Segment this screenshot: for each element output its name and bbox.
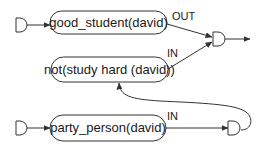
edge-label-in-middle: IN (167, 47, 178, 59)
and-gate-top (213, 32, 225, 46)
and-gate-bottom (228, 121, 240, 135)
node-good-student[interactable]: good_student(david) (49, 11, 168, 34)
node-not-study-hard-label: not(study hard (david)) (44, 62, 175, 77)
node-party-person[interactable]: party_person(david) (50, 115, 166, 141)
logic-diagram: good_student(david) OUT IN not(study har… (0, 0, 265, 153)
node-party-person-label: party_person(david) (50, 120, 166, 135)
edge-good-student-to-and (167, 24, 212, 37)
edge-label-in-bottom: IN (167, 110, 178, 122)
input-gate-bottom (16, 121, 27, 135)
input-gate-top (16, 18, 27, 32)
node-not-study-hard[interactable]: not(study hard (david)) (44, 57, 175, 82)
node-good-student-label: good_student(david) (49, 15, 168, 30)
edge-label-out: OUT (172, 10, 196, 22)
